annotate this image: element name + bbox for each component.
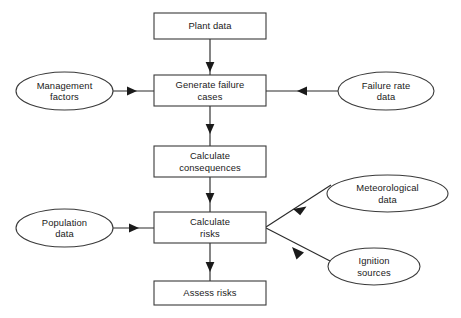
edge-ignition-sources-to-calculate-risks [266,228,332,262]
flowchart-svg [0,0,461,318]
node-ignition-sources[interactable] [328,248,420,285]
edge-population-data-to-calculate-risks [113,224,154,233]
edge-generate-failure-cases-to-calculate-consequences [206,106,215,146]
node-failure-rate-data[interactable] [338,72,434,110]
node-meteorological-data[interactable] [327,175,448,212]
edge-management-factors-to-generate-failure-cases [113,87,154,96]
flowchart-canvas: Plant data Generate failure cases Calcul… [0,0,461,318]
node-assess-risks[interactable] [154,281,266,305]
node-calculate-risks[interactable] [154,212,266,243]
node-plant-data[interactable] [154,13,266,39]
node-management-factors[interactable] [16,72,113,110]
node-population-data[interactable] [16,209,113,247]
node-generate-failure-cases[interactable] [154,75,266,106]
edge-plant-data-to-generate-failure-cases [206,39,215,75]
edge-calculate-risks-to-assess-risks [206,243,215,281]
edge-failure-rate-data-to-generate-failure-cases [266,87,338,96]
edge-meteorological-data-to-calculate-risks [266,185,331,227]
node-calculate-consequences[interactable] [154,146,266,177]
edge-calculate-consequences-to-calculate-risks [206,177,215,212]
